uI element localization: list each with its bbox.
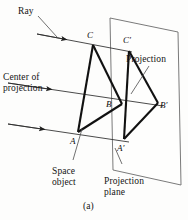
center-of-projection-label: Center of projection [3, 72, 43, 94]
vertex-label-C-prime: C′ [123, 36, 131, 45]
figure-caption: (a) [83, 201, 94, 211]
figure-drawing [0, 0, 188, 220]
leader-ray [38, 16, 57, 37]
vertex-label-A: A [70, 137, 76, 146]
vertex-label-B-prime: B′ [160, 101, 167, 110]
space-object-label: Space object [52, 166, 76, 188]
vertex-label-B: B [106, 100, 112, 109]
ray-bottom-arrow [8, 124, 45, 130]
vertex-label-C: C [87, 31, 93, 40]
ray-label: Ray [18, 6, 34, 17]
ray-top-arrow [37, 34, 67, 40]
projection-plane-label: Projection plane [104, 176, 144, 198]
projection-figure: Ray Center of projection Projection Spac… [0, 0, 188, 220]
projection-label: Projection [126, 54, 166, 65]
edge-C-A [78, 45, 93, 132]
vertex-label-A-prime: A′ [117, 144, 124, 153]
